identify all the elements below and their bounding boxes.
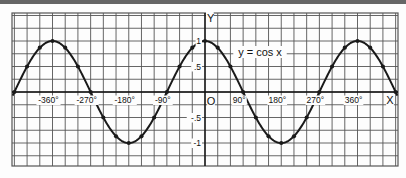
y-tick-label: -.5 [191,113,201,123]
data-point [394,90,398,94]
data-point [279,141,283,145]
x-tick-label: 90° [233,95,246,105]
y-axis-label: Y [207,12,215,24]
x-axis-label: X [386,94,394,106]
data-point [203,39,207,43]
data-point [63,46,67,50]
x-tick-label: 360° [345,95,363,105]
x-tick-label: -360° [38,95,58,105]
data-point [127,141,131,145]
data-point [216,46,220,50]
data-point [12,90,16,94]
data-point [89,90,93,94]
y-tick-label: 1 [196,36,201,46]
origin-label: O [207,95,216,107]
data-point [355,39,359,43]
data-point [254,115,258,119]
data-point [165,90,169,94]
data-point [266,134,270,138]
data-point [101,115,105,119]
x-tick-label: 270° [307,95,325,105]
data-point [368,46,372,50]
data-point [305,115,309,119]
x-tick-label: -270° [76,95,96,105]
data-point [139,134,143,138]
data-point [50,39,54,43]
x-tick-label: -90° [155,95,171,105]
x-tick-label: 180° [268,95,286,105]
data-point [114,134,118,138]
data-point [330,64,334,68]
data-point [228,64,232,68]
data-point [76,64,80,68]
data-point [241,90,245,94]
data-point [38,46,42,50]
chart-title: y = cos x [238,46,282,58]
y-tick-label: .5 [194,62,201,72]
x-tick-label: -180° [115,95,135,105]
data-point [177,64,181,68]
data-point [152,115,156,119]
data-point [317,90,321,94]
y-tick-label: -1 [193,138,201,148]
data-point [381,64,385,68]
data-point [292,134,296,138]
data-point [190,46,194,50]
data-point [343,46,347,50]
cosine-chart: -360°-270°-180°-90°90°180°270°360°1.5-.5… [0,0,406,178]
data-point [25,64,29,68]
